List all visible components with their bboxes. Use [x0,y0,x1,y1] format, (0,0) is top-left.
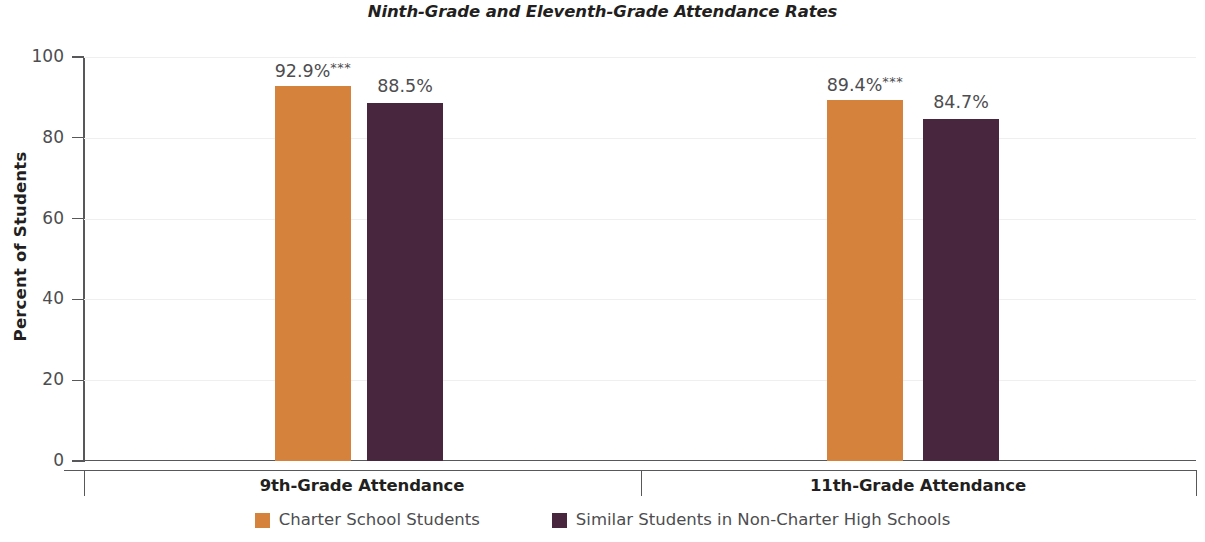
gridline [84,219,1196,220]
gridline [84,57,1196,58]
chart-legend: Charter School StudentsSimilar Students … [0,512,1205,529]
x-axis-category-label: 9th-Grade Attendance [162,476,562,495]
bar-value-label: 88.5% [327,78,483,96]
gridline [84,138,1196,139]
legend-label: Similar Students in Non-Charter High Sch… [576,512,950,529]
category-band-rule [64,470,1196,471]
legend-label: Charter School Students [279,512,480,529]
significance-marker: *** [330,60,351,75]
category-divider [1196,470,1197,496]
chart-figure: Ninth-Grade and Eleventh-Grade Attendanc… [0,0,1205,542]
gridline [84,380,1196,381]
bar-value-label: 92.9%*** [235,61,391,81]
bar-value-label: 89.4%*** [787,75,943,95]
x-axis-category-label: 11th-Grade Attendance [718,476,1118,495]
legend-swatch-icon [552,513,567,528]
y-axis-tick-label: 0 [4,452,64,469]
bar[interactable] [367,103,443,461]
bar-value-label: 84.7% [883,94,1039,112]
bar[interactable] [275,86,351,461]
category-divider [641,470,642,496]
gridline [84,299,1196,300]
y-axis-title: Percent of Students [11,97,30,397]
legend-item[interactable]: Similar Students in Non-Charter High Sch… [552,512,950,529]
legend-item[interactable]: Charter School Students [255,512,480,529]
chart-title: Ninth-Grade and Eleventh-Grade Attendanc… [0,2,1205,21]
plot-area [84,57,1196,461]
legend-swatch-icon [255,513,270,528]
y-axis-tick-label: 100 [4,48,64,65]
bar[interactable] [923,119,999,461]
bar[interactable] [827,100,903,461]
category-divider [84,470,85,496]
significance-marker: *** [882,74,903,89]
